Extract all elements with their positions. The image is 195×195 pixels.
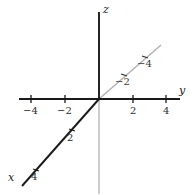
x-tick-label-4: 4 <box>31 172 37 182</box>
y-tick-label-minus4: −4 <box>23 106 38 116</box>
y-axis-label: y <box>179 85 185 96</box>
x-axis-negative-line <box>99 45 161 99</box>
x-axis-label: x <box>8 172 14 183</box>
x-tick-label-minus2: −2 <box>115 77 130 87</box>
y-tick-label-4: 4 <box>163 106 169 116</box>
x-tick-label-minus4: −4 <box>137 59 152 69</box>
z-axis-label: z <box>103 4 109 15</box>
axes-drawing <box>0 0 195 195</box>
coordinate-axes-figure: z y x −4 −2 2 4 2 4 −2 −4 <box>0 0 195 195</box>
y-tick-label-2: 2 <box>130 106 136 116</box>
x-tick-label-2: 2 <box>67 133 73 143</box>
y-tick-label-minus2: −2 <box>57 106 72 116</box>
